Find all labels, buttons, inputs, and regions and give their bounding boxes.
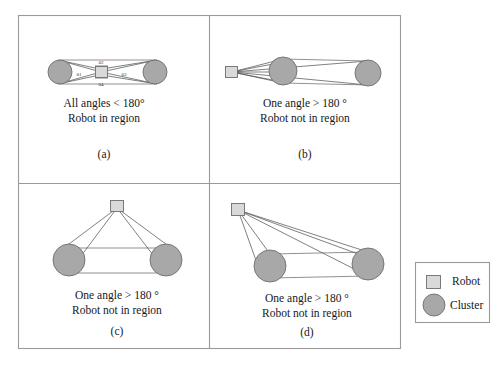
cluster-d-right [352,248,384,280]
robot-d [232,204,245,216]
panel-c-text: One angle > 180 ° Robot not in region [42,288,192,317]
rays-b [232,59,368,85]
panel-a-text: All angles < 180° Robot in region [34,96,174,125]
cluster-b-right [355,60,381,86]
legend-robot-swatch [427,276,441,289]
panel-d-caption: (d) [232,326,382,338]
panel-a-caption: (a) [34,148,174,160]
panel-b-text: One angle > 180 ° Robot not in region [230,96,380,125]
panel-a-diagram: θ1 θ2 θ3 θ4 [48,60,167,87]
cluster-a-left [48,60,72,84]
legend [416,263,490,323]
angle-label-theta4: θ4 [99,82,104,87]
legend-robot-label: Robot [452,275,480,287]
hull-top-b [283,59,368,61]
legend-cluster-label: Cluster [450,299,483,311]
panel-b-caption: (b) [230,148,380,160]
cluster-d-left [254,250,286,282]
panel-c-diagram [53,201,182,277]
cluster-c-left [53,244,85,276]
figure-root: θ1 θ2 θ3 θ4 [0,0,504,370]
robot-c [111,201,124,212]
panel-a-line1: All angles < 180° [34,96,174,111]
robot-a [96,67,108,78]
panel-c-line2: Robot not in region [42,303,192,318]
panel-b-diagram [226,57,382,86]
panel-c-caption: (c) [42,325,192,337]
panel-b-line2: Robot not in region [230,111,380,126]
panel-b-line1: One angle > 180 ° [230,96,380,111]
legend-cluster-swatch [423,294,445,316]
panel-d-text: One angle > 180 ° Robot not in region [232,291,382,320]
robot-b [226,67,238,78]
panel-a-line2: Robot in region [34,111,174,126]
angle-label-theta1: θ1 [77,72,82,77]
angle-label-theta3: θ3 [122,72,127,77]
panel-d-line1: One angle > 180 ° [232,291,382,306]
cluster-b-left [269,57,297,85]
panel-d-diagram [232,204,385,283]
cluster-c-right [150,244,182,276]
hull-bottom-d [270,276,368,278]
angle-label-theta2: θ2 [99,60,104,65]
panel-d-line2: Robot not in region [232,306,382,321]
panel-c-line1: One angle > 180 ° [42,288,192,303]
cluster-a-right [143,60,167,84]
